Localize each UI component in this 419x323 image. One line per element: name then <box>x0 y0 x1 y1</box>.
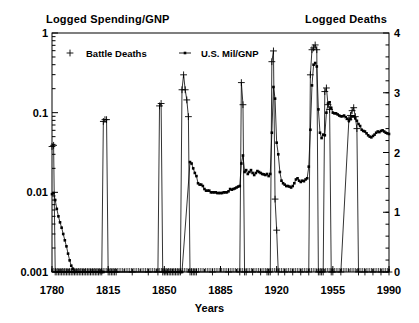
y-tick-right-4: 4 <box>394 27 400 39</box>
series-1 <box>49 42 393 276</box>
y-tick-right-1: 1 <box>394 206 400 218</box>
x-tick-2: 1850 <box>152 284 176 296</box>
y-tick-right-3: 3 <box>394 87 400 99</box>
series-2 <box>51 62 391 274</box>
legend-item-2: U.S. Mil/GNP <box>201 48 259 59</box>
y-tick-right-2: 2 <box>394 147 400 159</box>
x-tick-3: 1885 <box>208 284 232 296</box>
x-tick-6: 1990 <box>377 284 401 296</box>
y-tick-left-2: 0.1 <box>0 107 48 119</box>
x-tick-4: 1920 <box>264 284 288 296</box>
y-tick-left-0: 0.001 <box>0 266 48 278</box>
x-tick-1: 1815 <box>96 284 120 296</box>
legend-item-1: Battle Deaths <box>86 48 147 59</box>
y-tick-right-0: 0 <box>394 266 400 278</box>
x-tick-0: 1780 <box>40 284 64 296</box>
x-tick-5: 1955 <box>321 284 345 296</box>
y-tick-left-3: 1 <box>0 27 48 39</box>
chart-root: Logged Spending/GNP Logged Deaths Years … <box>0 0 419 323</box>
y-tick-left-1: 0.01 <box>0 186 48 198</box>
